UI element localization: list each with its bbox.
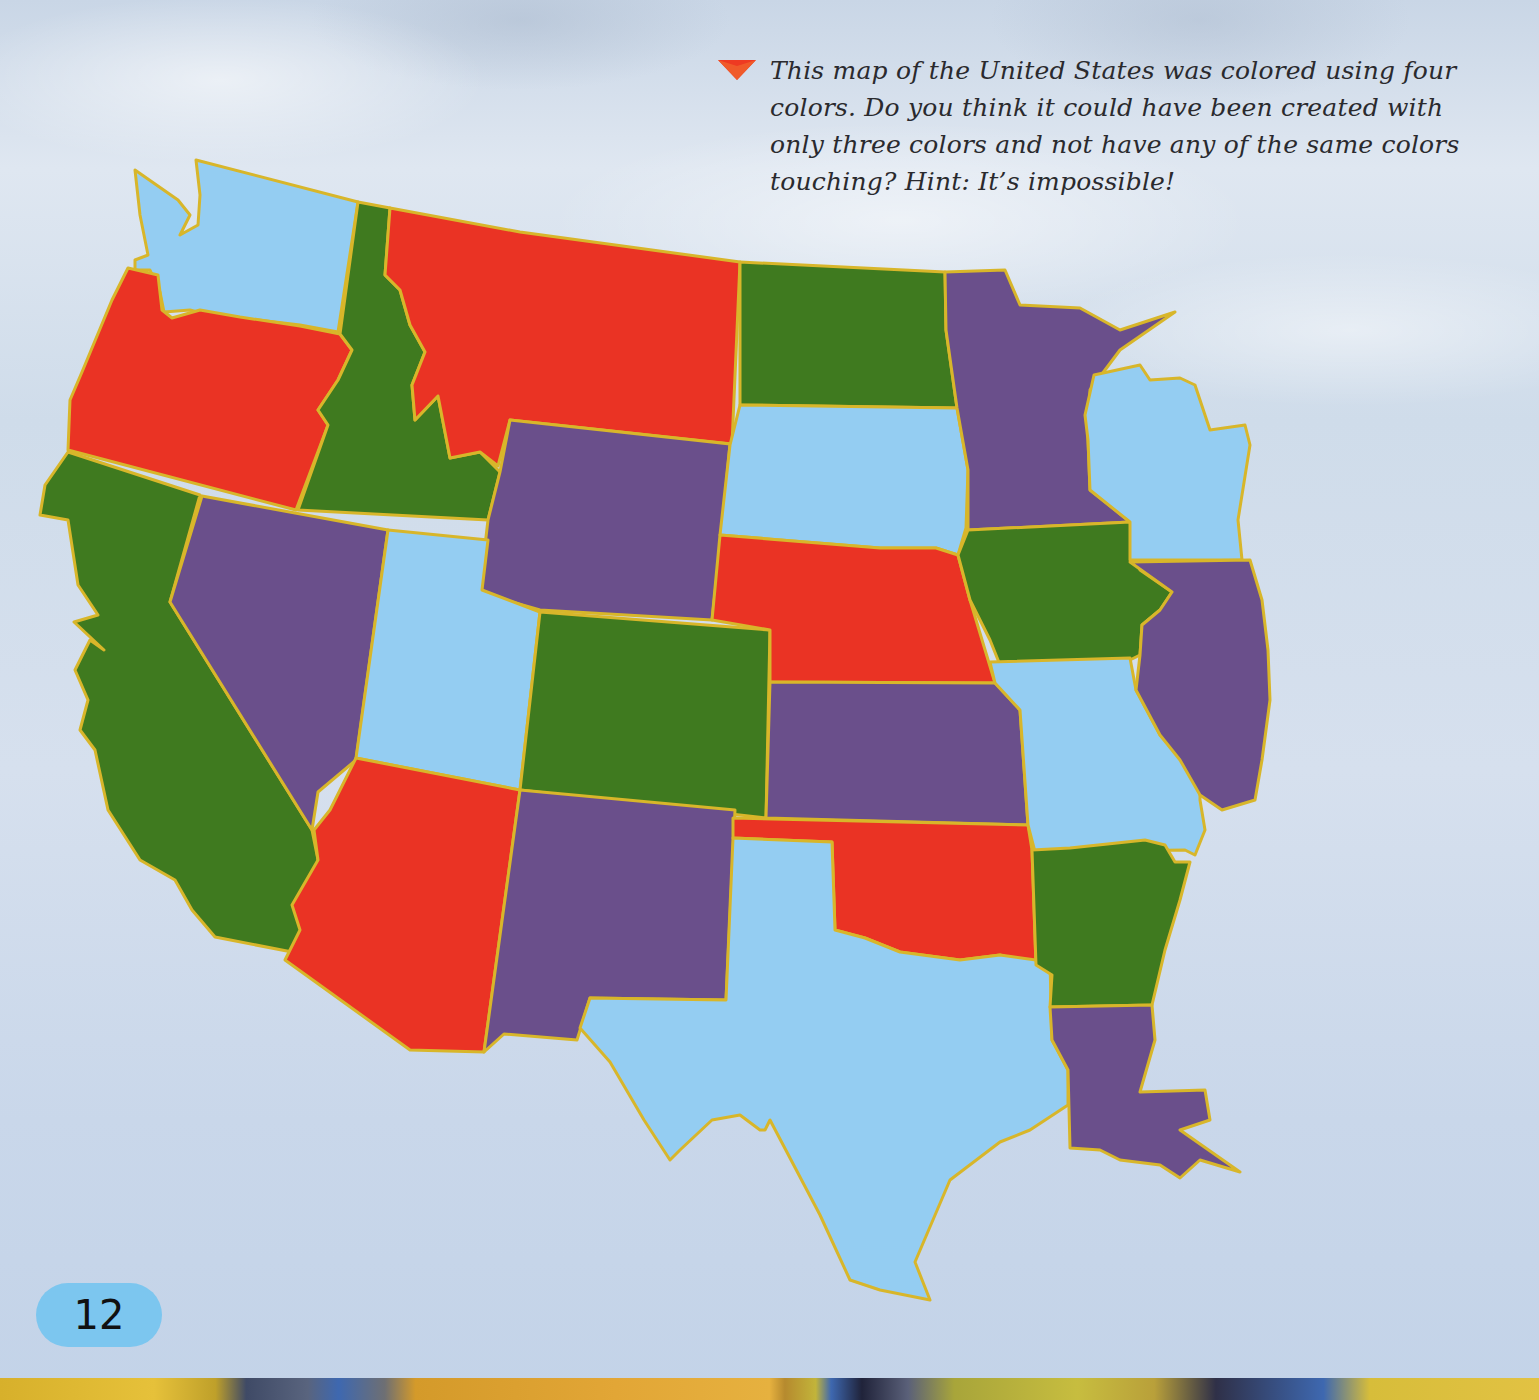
page-number: 12 xyxy=(74,1292,125,1338)
state-wyoming xyxy=(480,420,730,620)
state-washington xyxy=(135,160,358,332)
state-arkansas xyxy=(1032,840,1190,1007)
state-kansas xyxy=(766,682,1028,825)
us-four-color-map: /> xyxy=(0,0,1539,1400)
state-arizona xyxy=(285,758,520,1052)
state-north-dakota xyxy=(740,262,957,408)
state-south-dakota xyxy=(720,405,968,555)
page-number-badge: 12 xyxy=(36,1283,162,1347)
state-colorado xyxy=(520,612,770,818)
decorative-bottom-strip xyxy=(0,1378,1539,1400)
state-louisiana xyxy=(1050,1005,1240,1178)
